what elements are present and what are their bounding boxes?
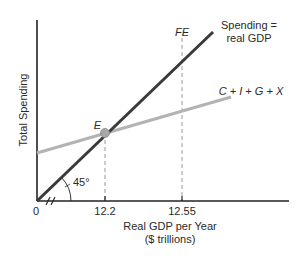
tick-label-12-55: 12.55 [168, 205, 196, 217]
x-axis-label: Real GDP per Year [123, 220, 217, 232]
chart: Total Spending 0 12.2 12.55 Real GDP per… [0, 0, 301, 258]
angle-label: 45° [73, 176, 90, 188]
line45-label-1: Spending = [221, 19, 277, 31]
aggregate-expenditure-line [37, 97, 231, 153]
y-axis-label: Total Spending [17, 74, 29, 147]
e-label: E [94, 119, 102, 131]
line45-label-2: real GDP [226, 32, 271, 44]
angle-arc-icon [62, 178, 72, 202]
spending-equals-gdp-line [37, 32, 213, 201]
fe-label: FE [175, 26, 190, 38]
tick-label-12-2: 12.2 [94, 205, 115, 217]
equilibrium-point-e [101, 129, 110, 138]
x-axis-unit: ($ trillions) [145, 233, 196, 245]
tick-label-0: 0 [33, 205, 39, 217]
aggregate-expenditure-label: C + I + G + X [219, 85, 284, 97]
